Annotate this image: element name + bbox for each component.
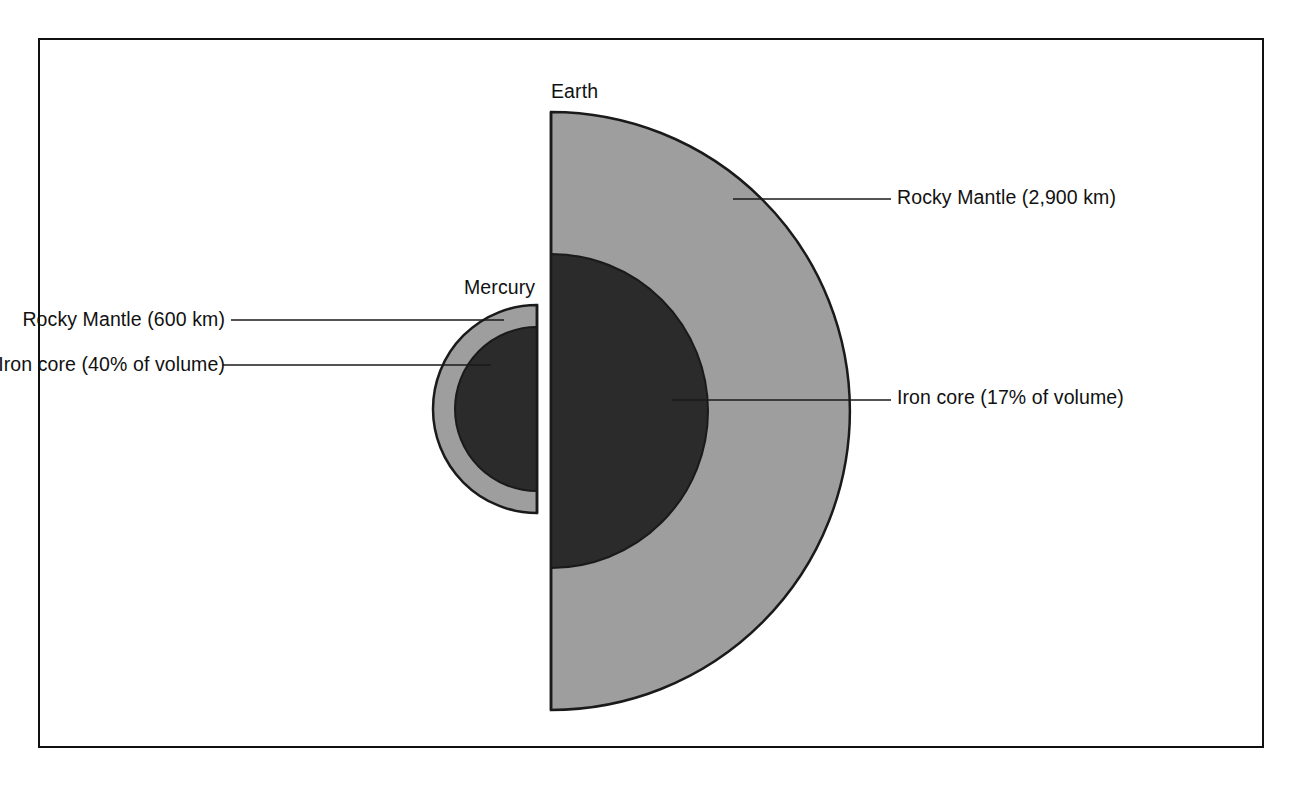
earth-title-label: Earth (551, 82, 598, 102)
earth-iron-core-label: Iron core (17% of volume) (897, 388, 1124, 408)
mercury-iron-core-label: Iron core (40% of volume) (0, 355, 225, 375)
earth-body-group (551, 112, 850, 710)
figure-root: Earth Mercury Rocky Mantle (2,900 km) Ir… (0, 0, 1301, 788)
mercury-title-label: Mercury (464, 278, 535, 298)
mercury-body-group (433, 305, 537, 513)
earth-rocky-mantle-label: Rocky Mantle (2,900 km) (897, 188, 1116, 208)
mercury-rocky-mantle-label: Rocky Mantle (600 km) (22, 310, 225, 330)
